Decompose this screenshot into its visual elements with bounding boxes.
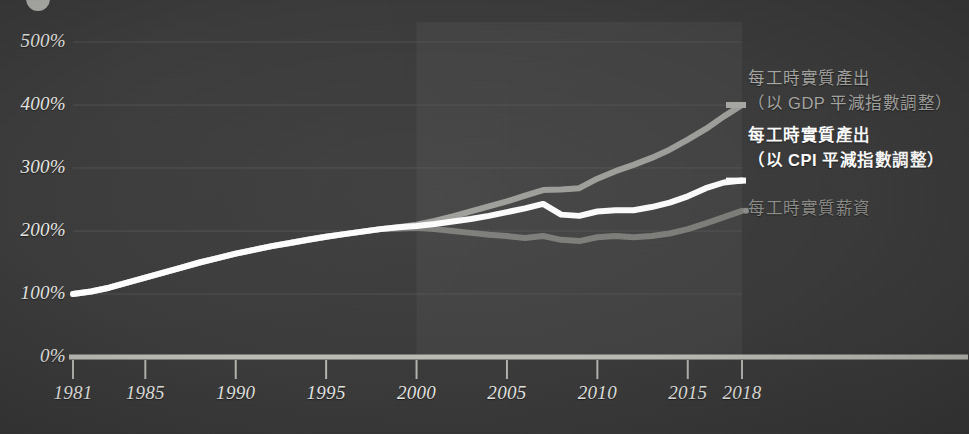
legend-label-wage-line1: 每工時實質薪資 [748,196,871,221]
chart-figure: 0%100%200%300%400%500%198119851990199520… [0,0,969,434]
x-axis-tick-label: 1990 [191,382,281,404]
legend-label-gdp-line2: （以 GDP 平減指數調整） [748,91,953,116]
y-axis-tick-label: 200% [20,219,66,241]
y-axis-tick-label: 500% [20,30,66,52]
x-axis-tick-label: 1985 [100,382,190,404]
x-axis-tick-label: 1995 [281,382,371,404]
legend-label-cpi-line1: 每工時實質產出 [748,123,945,148]
y-axis-tick-label: 400% [20,93,66,115]
x-axis-tick-label: 2018 [697,382,787,404]
y-axis-tick-label: 0% [40,345,66,367]
legend-item-gdp[interactable]: 每工時實質產出 （以 GDP 平減指數調整） [748,66,953,116]
x-axis-tick-label: 2000 [372,382,462,404]
legend-label-gdp-line1: 每工時實質產出 [748,66,953,91]
y-axis-tick-label: 100% [20,282,66,304]
legend-item-wage[interactable]: 每工時實質薪資 [748,196,871,221]
x-axis-tick-label: 2005 [462,382,552,404]
x-axis-tick-label: 2010 [552,382,642,404]
y-axis-tick-label: 300% [20,156,66,178]
legend-label-cpi-line2: （以 CPI 平減指數調整） [748,148,945,173]
legend-item-cpi[interactable]: 每工時實質產出 （以 CPI 平減指數調整） [748,123,945,173]
